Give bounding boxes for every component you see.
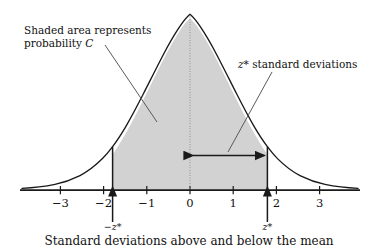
x-tick-label-minus3: −3 [52,196,69,210]
normal-distribution-figure: Shaded area represents probability C z* … [0,0,378,252]
annotation-shaded-area-line2-prefix: probability [24,37,85,49]
left-boundary-minus: − [104,221,112,232]
annotation-zstar-standard-deviations: z* standard deviations [238,58,357,71]
x-tick-label-minus1: −1 [138,196,155,210]
left-boundary-label: −z* [104,221,122,232]
x-tick-label-1: 1 [230,196,237,210]
left-boundary-asterisk: * [117,221,122,232]
x-tick-label-minus2: −2 [95,196,112,210]
annotation-probability-variable: C [85,37,93,49]
figure-bottom-caption: Standard deviations above and below the … [0,234,378,248]
annotation-shaded-area: Shaded area represents probability C [24,24,174,49]
right-boundary-label: z* [263,221,273,232]
annotation-zstar-text: standard deviations [249,58,358,70]
x-tick-label-3: 3 [316,196,323,210]
x-tick-label-0: 0 [186,196,193,210]
x-tick-label-2: 2 [273,196,280,210]
right-boundary-asterisk: * [268,221,273,232]
annotation-shaded-area-line1: Shaded area represents [24,24,151,36]
